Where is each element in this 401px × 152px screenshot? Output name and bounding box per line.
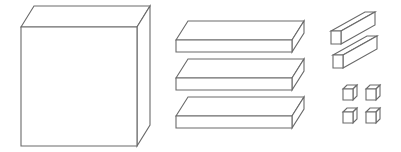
top-face <box>21 6 150 27</box>
front-face <box>366 112 376 123</box>
base-ten-blocks-diagram <box>0 0 401 152</box>
top-face <box>176 97 304 116</box>
front-face <box>343 89 353 100</box>
front-face <box>176 116 292 128</box>
flat-3-block <box>176 97 304 128</box>
front-face <box>176 40 292 52</box>
unit-1-block <box>343 85 357 100</box>
front-face <box>331 31 341 44</box>
front-face <box>366 89 376 100</box>
flat-1-block <box>176 21 304 52</box>
unit-4-block <box>366 108 380 123</box>
top-face <box>176 59 304 78</box>
front-face <box>333 55 343 68</box>
side-face <box>137 6 150 146</box>
flat-2-block <box>176 59 304 90</box>
big-cube-block <box>21 6 150 146</box>
unit-3-block <box>343 108 357 123</box>
front-face <box>343 112 353 123</box>
top-face <box>176 21 304 40</box>
blocks-layer <box>21 6 380 146</box>
unit-2-block <box>366 85 380 100</box>
front-face <box>21 27 137 146</box>
front-face <box>176 78 292 90</box>
